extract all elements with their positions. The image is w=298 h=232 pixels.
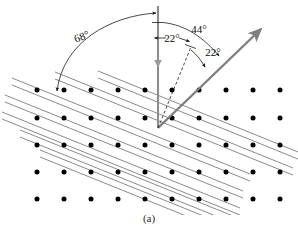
figure-container: 68° 44° 22° 22° (a) (0, 0, 298, 232)
lattice-dot (143, 88, 148, 93)
lattice-dot (224, 143, 229, 148)
lattice-dot (278, 170, 283, 175)
lattice-dot (116, 88, 121, 93)
lattice-dot (170, 143, 175, 148)
lattice-dot (197, 143, 202, 148)
lattice-dot (251, 88, 256, 93)
lattice-dot (35, 88, 40, 93)
lattice-dot (278, 88, 283, 93)
lattice-dot (251, 116, 256, 121)
lattice-dot (278, 116, 283, 121)
lattice-dot (197, 170, 202, 175)
lattice-dot (143, 116, 148, 121)
lattice-dot (224, 170, 229, 175)
lattice-dot (251, 197, 256, 202)
lattice-dot (224, 88, 229, 93)
lattice-dot (116, 143, 121, 148)
lattice-dot (224, 197, 229, 202)
lattice-dot (89, 170, 94, 175)
lattice-dot (197, 197, 202, 202)
lattice-dot (62, 116, 67, 121)
lattice-dot (170, 197, 175, 202)
lattice-dot (143, 170, 148, 175)
lattice-dot (278, 143, 283, 148)
lattice-dot (35, 197, 40, 202)
lattice-dot (62, 143, 67, 148)
lattice-dot (62, 197, 67, 202)
lattice-dot (89, 116, 94, 121)
lattice-dot (224, 116, 229, 121)
angle-label-22-left: 22° (164, 32, 179, 44)
lattice-dot (170, 170, 175, 175)
lattice-dot (89, 197, 94, 202)
lattice-dot (35, 116, 40, 121)
lattice-dot (278, 197, 283, 202)
lattice-dot (116, 116, 121, 121)
angle-label-22-right: 22° (205, 46, 220, 58)
lattice-dot (143, 197, 148, 202)
lattice-dot (35, 143, 40, 148)
lattice-diffraction-diagram: 68° 44° 22° 22° (a) (0, 0, 298, 232)
figure-caption: (a) (143, 212, 156, 225)
lattice-dot (197, 116, 202, 121)
lattice-dot (116, 170, 121, 175)
lattice-dot (116, 197, 121, 202)
lattice-dot (62, 88, 67, 93)
lattice-dot (35, 170, 40, 175)
lattice-dot (89, 143, 94, 148)
lattice-dot (89, 88, 94, 93)
lattice-dot (143, 143, 148, 148)
lattice-dot (170, 88, 175, 93)
lattice-dot (251, 170, 256, 175)
lattice-dot (62, 170, 67, 175)
lattice-dot (251, 143, 256, 148)
angle-label-44: 44° (191, 23, 206, 35)
